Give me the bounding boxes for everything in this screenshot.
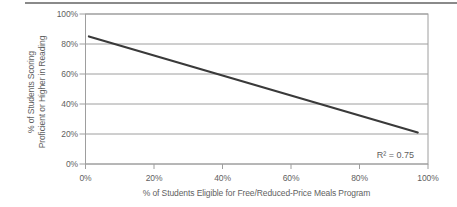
x-tick-label: 20% — [132, 173, 176, 183]
r-squared-annotation: R² = 0.75 — [377, 150, 414, 160]
x-tick-label: 40% — [201, 173, 245, 183]
y-tick-label: 40% — [30, 99, 78, 109]
x-tick-label: 80% — [338, 173, 382, 183]
plot-frame — [86, 14, 429, 164]
x-tick-label: 0% — [64, 173, 108, 183]
y-tick-label: 100% — [30, 9, 78, 19]
y-tick-label: 80% — [30, 39, 78, 49]
x-tick-label: 100% — [406, 173, 450, 183]
trend-line — [89, 37, 418, 133]
x-axis-title: % of Students Eligible for Free/Reduced-… — [85, 188, 428, 198]
y-tick-label: 0% — [30, 159, 78, 169]
figure: % of Students Scoring Proficient or High… — [0, 0, 457, 207]
y-tick-label: 20% — [30, 129, 78, 139]
x-tick-label: 60% — [269, 173, 313, 183]
y-tick-label: 60% — [30, 69, 78, 79]
